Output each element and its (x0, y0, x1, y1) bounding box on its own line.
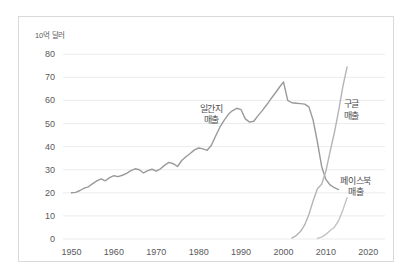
y-tick-label: 80 (31, 49, 55, 59)
chart-frame: 10억 달러 01020304050607080 195019601970198… (18, 16, 394, 262)
x-tick-label: 1960 (94, 247, 134, 257)
y-tick-label: 50 (31, 119, 55, 129)
series-line-3 (317, 198, 347, 239)
series-label-line1: 페이스북 (326, 176, 386, 188)
x-tick-label: 2010 (306, 247, 346, 257)
y-tick-label: 0 (31, 234, 55, 244)
series-lines (71, 67, 347, 238)
y-tick-label: 70 (31, 72, 55, 82)
y-tick-label: 30 (31, 165, 55, 175)
x-tick-label: 1950 (51, 247, 91, 257)
x-tick-label: 1970 (136, 247, 176, 257)
grid-lines (63, 54, 385, 239)
series-label-line1: 구글 (321, 99, 381, 111)
series-label-line2: 매출 (181, 115, 241, 127)
x-tick-label: 1990 (221, 247, 261, 257)
series-line-1 (71, 82, 338, 193)
x-tick-label: 1980 (179, 247, 219, 257)
y-tick-label: 40 (31, 142, 55, 152)
series-label-line1: 일간지 (181, 104, 241, 116)
series-label-line2: 매출 (326, 187, 386, 199)
x-tick-label: 2000 (263, 247, 303, 257)
series-annotation-3: 페이스북매출 (326, 176, 386, 199)
series-label-line2: 매출 (321, 111, 381, 123)
series-annotation-1: 일간지매출 (181, 104, 241, 127)
y-tick-label: 60 (31, 95, 55, 105)
series-annotation-2: 구글매출 (321, 99, 381, 122)
x-tick-label: 2020 (348, 247, 388, 257)
chart-figure: 10억 달러 01020304050607080 195019601970198… (0, 0, 416, 280)
plot-area (19, 17, 393, 261)
y-tick-label: 20 (31, 188, 55, 198)
y-tick-label: 10 (31, 211, 55, 221)
